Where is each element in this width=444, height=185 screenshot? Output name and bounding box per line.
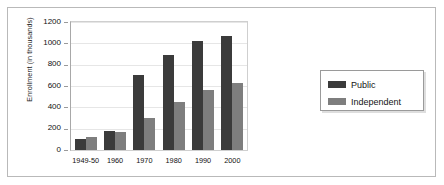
y-tick-mark [64,150,68,151]
bars-layer [71,22,247,150]
bar-group [103,22,127,150]
bar-group [74,22,98,150]
legend-item-independent[interactable]: Independent [328,95,401,108]
bar-public-2000[interactable] [221,36,232,150]
y-tick-mark [64,107,68,108]
chart-screenshot: Enrollment (in thousands) 12001000800600… [0,0,444,185]
bar-independent-1990[interactable] [203,90,214,150]
y-tick-label: 0 [57,145,61,154]
x-tick-label: 1949-50 [71,156,100,165]
y-tick-label: 600 [48,81,61,90]
y-tick-mark [64,22,68,23]
bar-public-1949-50[interactable] [75,139,86,150]
x-tick-label: 1980 [159,156,188,165]
x-tick-label: 1970 [130,156,159,165]
bar-independent-1949-50[interactable] [86,137,97,150]
bar-independent-1960[interactable] [115,132,126,150]
y-tick-label: 800 [48,59,61,68]
y-tick-mark [64,43,68,44]
bar-public-1970[interactable] [133,75,144,150]
y-tick-label: 200 [48,123,61,132]
legend-label: Public [351,80,376,90]
legend-item-public[interactable]: Public [328,78,376,91]
bar-independent-2000[interactable] [232,83,243,150]
bar-independent-1970[interactable] [144,118,155,150]
chart-legend: PublicIndependent [320,70,424,111]
bar-independent-1980[interactable] [174,102,185,150]
legend-swatch-public [328,81,346,88]
x-tick-label: 2000 [218,156,247,165]
bar-public-1980[interactable] [163,55,174,150]
y-tick-mark [64,86,68,87]
bar-group [162,22,186,150]
bar-public-1960[interactable] [104,131,115,150]
bar-group [132,22,156,150]
y-tick-label: 1200 [43,17,61,26]
y-tick-mark [64,129,68,130]
plot-area: 120010008006004002000 1949-5019601970198… [70,21,248,151]
x-tick-label: 1990 [188,156,217,165]
y-tick-label: 400 [48,102,61,111]
x-tick-label: 1960 [100,156,129,165]
legend-label: Independent [351,97,401,107]
bar-group [220,22,244,150]
chart-area: Enrollment (in thousands) 12001000800600… [8,8,260,178]
y-tick-label: 1000 [43,38,61,47]
y-axis-title: Enrollment (in thousands) [25,2,34,118]
y-tick-mark [64,65,68,66]
legend-swatch-independent [328,98,346,105]
figure-frame: Enrollment (in thousands) 12001000800600… [7,7,436,177]
bar-group [191,22,215,150]
bar-public-1990[interactable] [192,41,203,150]
